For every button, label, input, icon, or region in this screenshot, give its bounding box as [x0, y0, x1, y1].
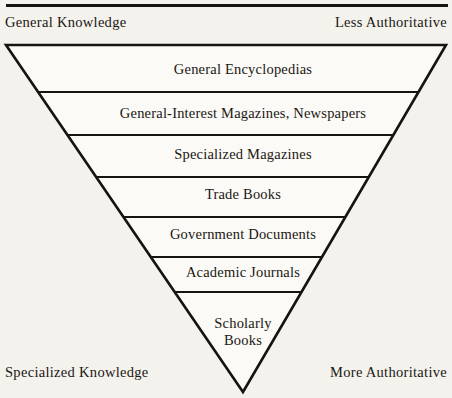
band-label: General-Interest Magazines, Newspapers — [120, 105, 366, 121]
band-label-line: Books — [224, 332, 262, 348]
band-label: General Encyclopedias — [174, 61, 312, 77]
band-label-line: Scholarly — [214, 315, 272, 331]
band-label-line: Academic Journals — [186, 264, 300, 280]
band-label-line: Government Documents — [170, 226, 316, 242]
band-label: Specialized Magazines — [174, 146, 312, 162]
band-label: Government Documents — [170, 226, 316, 242]
pyramid-svg: General EncyclopediasGeneral-Interest Ma… — [0, 0, 452, 398]
band-label: Trade Books — [205, 186, 281, 202]
band-label: Academic Journals — [186, 264, 300, 280]
band-label-line: Specialized Magazines — [174, 146, 312, 162]
band-label-line: General-Interest Magazines, Newspapers — [120, 105, 366, 121]
band-label-line: General Encyclopedias — [174, 61, 312, 77]
information-pyramid-figure: General Knowledge Less Authoritative Spe… — [0, 0, 452, 398]
band-label-line: Trade Books — [205, 186, 281, 202]
